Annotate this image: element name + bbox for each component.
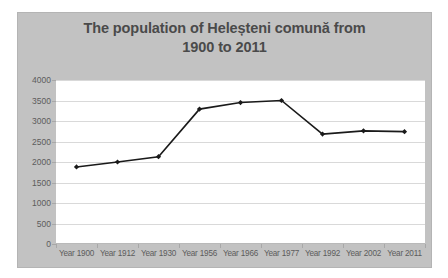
x-axis-tick-mark: [97, 244, 98, 248]
x-axis-labels: Year 1900Year 1912Year 1930Year 1956Year…: [56, 249, 425, 265]
y-axis-tick-label: 1500: [7, 178, 51, 188]
data-point-marker: [238, 100, 243, 105]
x-axis-tick-mark: [343, 244, 344, 248]
y-axis-tick-label: 3500: [7, 96, 51, 106]
x-axis-tick-mark: [384, 244, 385, 248]
chart-title: The population of Heleșteni comună from …: [18, 19, 431, 57]
y-axis-tick-label: 2500: [7, 137, 51, 147]
x-axis-tick-label: Year 2002: [346, 249, 381, 258]
data-series-population: [56, 80, 425, 244]
data-point-marker: [402, 129, 407, 134]
x-axis-tick-label: Year 1912: [100, 249, 135, 258]
chart-container: The population of Heleșteni comună from …: [17, 12, 432, 268]
y-axis-tick-label: 3000: [7, 116, 51, 126]
plot-area-wrapper: 40003500300025002000150010005000: [56, 80, 425, 244]
series-markers: [74, 98, 407, 170]
x-axis-tick-mark: [220, 244, 221, 248]
data-point-marker: [74, 164, 79, 169]
chart-title-line-1: The population of Heleșteni comună from: [18, 19, 431, 38]
x-axis-tick-label: Year 1930: [141, 249, 176, 258]
x-axis-tick-mark: [56, 244, 57, 248]
y-axis-tick-label: 2000: [7, 157, 51, 167]
x-axis-tick-mark: [179, 244, 180, 248]
x-axis-tick-mark: [425, 244, 426, 248]
y-axis-tick-label: 500: [7, 219, 51, 229]
x-axis-tick-label: Year 2011: [387, 249, 422, 258]
y-axis-tick-label: 4000: [7, 75, 51, 85]
y-axis-tick-label: 0: [7, 239, 51, 249]
series-line: [77, 101, 405, 167]
data-point-marker: [115, 159, 120, 164]
data-point-marker: [361, 128, 366, 133]
x-axis-tick-label: Year 1992: [305, 249, 340, 258]
x-axis-tick-label: Year 1956: [182, 249, 217, 258]
x-axis-tick-label: Year 1977: [264, 249, 299, 258]
y-axis-tick-label: 1000: [7, 198, 51, 208]
x-axis-tick-mark: [138, 244, 139, 248]
x-axis-tick-mark: [302, 244, 303, 248]
x-axis-tick-label: Year 1966: [223, 249, 258, 258]
chart-title-line-2: 1900 to 2011: [18, 38, 431, 57]
x-axis-tick-mark: [261, 244, 262, 248]
x-axis-tick-label: Year 1900: [59, 249, 94, 258]
